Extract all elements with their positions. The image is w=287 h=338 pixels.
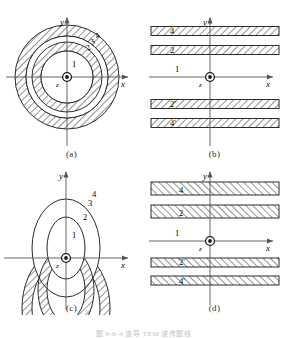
origin-marker-z: [206, 73, 215, 82]
panel-a: y x z 1 2 3 4 (a): [0, 6, 143, 161]
panel-d-y-axis-label: y: [202, 171, 207, 181]
panel-c-origin-label: z: [55, 262, 59, 270]
origin-marker-z: [62, 254, 71, 263]
panel-a-x-axis-label: x: [120, 79, 125, 89]
slab-4-prime: [151, 276, 279, 285]
panel-d-drawing: y x z 1 4 2 2' 4': [143, 160, 286, 315]
panel-a-origin-label: z: [55, 81, 59, 89]
panel-b-slab-label-4-prime: 4': [170, 118, 176, 128]
panel-d-slab-label-2: 2: [179, 208, 183, 218]
origin-marker-z: [63, 73, 72, 82]
panel-b-x-axis-label: x: [265, 79, 270, 89]
panel-a-caption: (a): [0, 149, 143, 159]
panel-a-drawing: y x z 1 2 3 4: [0, 6, 143, 161]
panel-b-label-1: 1: [175, 64, 179, 74]
panel-b-y-axis-label: y: [202, 17, 207, 27]
slab-2-prime: [151, 258, 279, 267]
panel-a-label-1: 1: [72, 59, 76, 69]
panel-c-label-2: 2: [83, 212, 87, 222]
panel-b-slab-label-2-prime: 2': [170, 99, 176, 109]
panel-d-slab-label-2-prime: 2': [179, 257, 185, 267]
figure-caption: 图 9-6-4 波导 TEM 波传图线: [0, 328, 287, 338]
panel-a-y-axis-label: y: [59, 17, 64, 27]
panel-d-origin-label: z: [198, 245, 202, 253]
panel-c-x-axis-label: x: [120, 260, 125, 270]
slab-2: [151, 205, 279, 218]
panel-d-slab-label-4-prime: 4': [179, 276, 185, 286]
slab-4: [151, 182, 279, 195]
panel-c-caption: (c): [0, 303, 143, 313]
panel-c-drawing: y x z 1 2 3 4: [0, 160, 143, 315]
panel-b-caption: (b): [143, 149, 286, 159]
panel-d-caption: (d): [143, 303, 286, 313]
panel-c-y-axis-label: y: [58, 171, 63, 181]
panel-c-label-1: 1: [72, 230, 76, 240]
panel-c: y x z 1 2 3 4 (c): [0, 160, 143, 315]
figure-container: y x z 1 2 3 4 (a): [0, 0, 287, 338]
origin-marker-z: [206, 237, 215, 246]
panel-b-origin-label: z: [198, 81, 202, 89]
panel-c-label-3: 3: [88, 198, 92, 208]
panel-b-drawing: y x z 1 4 2 2' 4': [143, 6, 286, 161]
panel-d-label-1: 1: [175, 228, 179, 238]
panel-d: y x z 1 4 2 2' 4' (d): [143, 160, 286, 315]
axes: [4, 171, 128, 310]
panel-c-label-4: 4: [92, 189, 97, 199]
panel-b-slab-label-2: 2: [170, 45, 174, 55]
panel-d-x-axis-label: x: [265, 243, 270, 253]
panel-b: y x z 1 4 2 2' 4' (b): [143, 6, 286, 161]
